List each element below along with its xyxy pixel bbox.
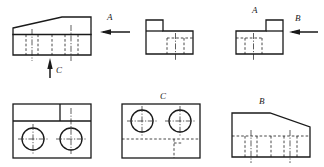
view-bottom-middle-hidden-lines [122, 139, 200, 158]
view-direction-arrow-a [100, 29, 130, 35]
label-view-b-bottom-right: B [259, 97, 265, 106]
label-arrow-c-bottom-left: C [56, 66, 62, 75]
view-top-right-lshape [236, 20, 283, 54]
view-bottom-right-hidden-lines [232, 136, 310, 157]
view-direction-arrow-c [47, 58, 52, 78]
view-bottom-left-center-lines [18, 108, 86, 154]
arrow-c-head [47, 58, 52, 69]
view-c-outline [122, 104, 200, 158]
view-top-middle-hidden-lines [167, 38, 193, 54]
label-arrow-b-top-right: B [295, 14, 301, 23]
view-top-right-hidden-lines [236, 38, 262, 54]
view-top-middle-lshape [146, 20, 193, 54]
label-arrow-a-top-right: A [252, 6, 258, 15]
drawing-sheet: A C A B C B [0, 0, 324, 167]
view-bottom-middle-rect [122, 104, 200, 158]
view-bottom-left-rect [13, 104, 91, 158]
engineering-drawing-canvas [0, 0, 324, 167]
arrow-a-head [100, 29, 111, 35]
label-arrow-a-top-middle: A [107, 13, 113, 22]
lshape-outline [146, 20, 193, 54]
lshape-mirrored-outline [236, 20, 283, 54]
view-top-left-hidden-lines [26, 35, 78, 56]
label-view-c-bottom-middle: C [160, 92, 166, 101]
arrow-b-head [289, 29, 300, 35]
view-direction-arrow-b [289, 29, 318, 35]
